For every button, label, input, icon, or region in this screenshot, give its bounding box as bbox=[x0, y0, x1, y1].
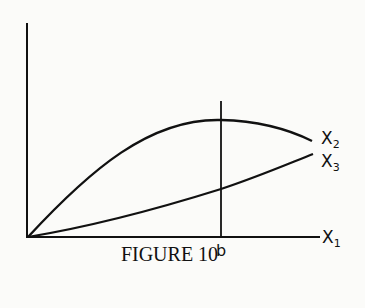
x3-label-base: X bbox=[321, 151, 333, 171]
figure-caption: FIGURE 10 bbox=[0, 243, 352, 266]
x2-label-base: X bbox=[321, 128, 333, 148]
x2-label: X2 bbox=[321, 130, 340, 150]
x2-label-sub: 2 bbox=[333, 138, 340, 151]
x3-label: X3 bbox=[321, 153, 340, 173]
x3-curve bbox=[28, 154, 313, 237]
x2-curve bbox=[28, 120, 312, 237]
x3-label-sub: 3 bbox=[333, 161, 340, 174]
